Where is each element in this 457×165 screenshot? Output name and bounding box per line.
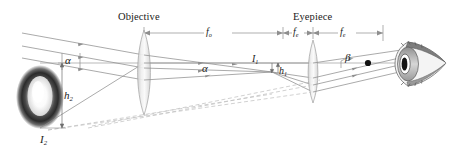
beta-angle-label: β [345,52,350,63]
focal-length-objective-label: fo [206,27,212,38]
fo-subscript: o [209,31,212,38]
alpha-angle-objective-label: α [202,63,208,74]
I1-subscript: 1 [255,58,258,65]
exit-pupil-point [365,60,371,66]
image-two-label: I2 [40,134,47,147]
virtual-image-dashed-rays [48,80,320,130]
telescope-ray-diagram: Objective Eyepiece fo fe fe α α β I1 h1 … [0,0,457,165]
objective-lens [138,30,151,115]
height-two-label: h2 [64,90,73,103]
image-one-label: I1 [252,54,258,65]
outgoing-rays [313,49,408,92]
h2-subscript: 2 [70,95,73,102]
focal-length-eyepiece-right-label: fe [340,27,346,38]
eyepiece-label: Eyepiece [293,12,332,23]
h1-subscript: 1 [284,70,287,77]
alpha-angle-object-label: α [65,55,71,66]
I2-subscript: 2 [44,139,47,146]
fe-subscript-right: e [343,31,346,38]
observer-eye [395,41,446,87]
converging-rays [144,55,313,80]
eyepiece-lens [308,40,318,103]
galaxy-object [16,65,64,129]
diagram-canvas [0,0,457,165]
height-one-label: h1 [279,66,287,77]
dimension-lines [144,25,383,41]
fe-subscript-left: e [296,31,299,38]
incoming-ray-arrows [78,43,84,71]
objective-label: Objective [118,12,160,23]
focal-length-eyepiece-left-label: fe [293,27,299,38]
